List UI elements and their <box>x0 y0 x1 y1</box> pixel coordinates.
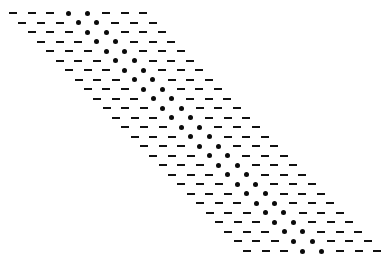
dash-mark <box>195 69 203 71</box>
dash-mark <box>242 155 250 157</box>
dash-mark <box>261 136 269 138</box>
dash-mark <box>121 107 129 109</box>
dash-mark <box>205 98 213 100</box>
dash-mark <box>354 231 362 233</box>
dash-mark <box>9 12 17 14</box>
dash-mark <box>46 12 54 14</box>
dash-mark <box>242 136 250 138</box>
dash-mark <box>317 231 325 233</box>
dot-mark <box>272 220 277 225</box>
dash-mark <box>149 60 157 62</box>
dash-mark <box>187 193 195 195</box>
dash-mark <box>102 88 110 90</box>
dash-mark <box>112 117 120 119</box>
dot-mark <box>319 249 324 254</box>
dash-mark <box>139 50 147 52</box>
dash-mark <box>364 240 372 242</box>
dash-mark <box>326 202 334 204</box>
dash-mark <box>327 240 335 242</box>
dash-mark <box>186 79 194 81</box>
dot-mark <box>188 115 193 120</box>
dash-mark <box>177 145 185 147</box>
dot-mark <box>104 30 109 35</box>
dash-mark <box>130 22 138 24</box>
dot-mark <box>141 68 146 73</box>
dash-mark <box>233 202 241 204</box>
dot-mark <box>272 201 277 206</box>
dash-mark <box>65 69 73 71</box>
dash-mark <box>177 88 185 90</box>
dash-mark <box>93 79 101 81</box>
dash-mark <box>261 155 269 157</box>
dot-mark <box>122 49 127 54</box>
dash-mark <box>289 164 297 166</box>
dot-mark <box>160 87 165 92</box>
dash-mark <box>205 174 213 176</box>
dash-mark <box>242 117 250 119</box>
dot-mark <box>160 106 165 111</box>
dash-mark <box>234 240 242 242</box>
dash-mark <box>215 183 223 185</box>
dash-mark <box>233 107 241 109</box>
dash-mark <box>270 183 278 185</box>
dash-mark <box>84 88 92 90</box>
dash-mark <box>46 31 54 33</box>
dash-mark <box>177 183 185 185</box>
dash-mark <box>243 212 251 214</box>
dot-mark <box>216 163 221 168</box>
dot-mark <box>291 239 296 244</box>
dash-mark <box>205 79 213 81</box>
dot-mark <box>150 77 155 82</box>
dash-mark <box>196 107 204 109</box>
dash-mark <box>177 164 185 166</box>
dash-mark <box>121 88 129 90</box>
dash-mark <box>121 31 129 33</box>
dash-mark <box>252 126 260 128</box>
dot-mark <box>207 153 212 158</box>
dash-mark <box>280 155 288 157</box>
dot-mark <box>85 11 90 16</box>
dot-mark <box>132 58 137 63</box>
dash-mark <box>205 193 213 195</box>
dash-mark <box>298 174 306 176</box>
dash-mark <box>233 145 241 147</box>
dash-mark <box>215 202 223 204</box>
dash-mark <box>298 193 306 195</box>
dash-mark <box>187 174 195 176</box>
dot-mark <box>254 201 259 206</box>
dash-mark <box>345 240 353 242</box>
dash-mark <box>168 79 176 81</box>
dash-mark <box>168 174 176 176</box>
dash-mark <box>140 107 148 109</box>
dot-mark <box>113 39 118 44</box>
dot-mark <box>310 239 315 244</box>
dot-mark <box>225 153 230 158</box>
dot-mark <box>281 210 286 215</box>
dash-mark <box>159 126 167 128</box>
dash-mark <box>130 98 138 100</box>
dash-mark <box>102 12 110 14</box>
dash-mark <box>355 250 363 252</box>
dash-mark <box>373 250 381 252</box>
dash-mark <box>233 126 241 128</box>
dot-mark <box>235 163 240 168</box>
dash-mark <box>186 60 194 62</box>
dot-mark <box>263 210 268 215</box>
dash-mark <box>252 145 260 147</box>
dash-mark <box>224 117 232 119</box>
dot-mark <box>244 172 249 177</box>
dash-mark <box>167 60 175 62</box>
dot-mark <box>300 229 305 234</box>
dash-mark <box>168 155 176 157</box>
dash-mark <box>103 107 111 109</box>
dot-mark <box>188 134 193 139</box>
dot-mark <box>151 96 156 101</box>
dash-mark <box>18 22 26 24</box>
dot-mark <box>94 20 99 25</box>
dash-mark <box>214 107 222 109</box>
dot-mark <box>66 11 71 16</box>
dash-mark <box>149 117 157 119</box>
dash-mark <box>336 250 344 252</box>
dash-mark <box>187 155 195 157</box>
dash-mark <box>261 174 269 176</box>
